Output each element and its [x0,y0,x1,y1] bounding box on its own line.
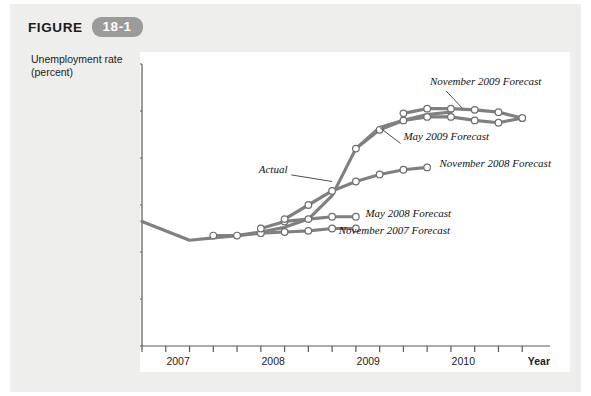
chart-svg: 0246810122007200820092010Year November 2… [140,52,570,372]
series-annotation: November 2008 Forecast [439,157,552,169]
axes-group: 0246810122007200820092010Year [140,58,550,367]
y-axis-title-text: Unemployment rate (percent) [31,53,123,78]
series-marker [495,119,502,126]
series-marker [353,213,360,220]
series-group [142,105,526,240]
annotation-leader-line [380,127,401,143]
series-annotation: May 2008 Forecast [364,207,452,219]
series-marker [519,115,526,122]
series-annotation: May 2009 Forecast [402,130,490,142]
series-marker [329,188,336,195]
annotation-leader-line [291,175,332,182]
series-annotation: November 2009 Forecast [429,75,542,87]
series-marker [305,228,312,235]
y-axis-title: Unemployment rate (percent) [31,53,141,79]
series-marker [424,105,431,112]
x-axis-name: Year [528,355,550,367]
x-tick-label: 2009 [357,355,381,367]
series-marker [376,171,383,178]
plot-panel: 0246810122007200820092010Year November 2… [140,52,570,372]
series-marker [400,166,407,173]
series-marker [281,216,288,223]
series-annotation: Actual [258,163,288,175]
series-marker [305,216,312,223]
series-marker [448,105,455,112]
figure-label: FIGURE [28,20,83,35]
series-marker [424,164,431,171]
series-annotation: November 2007 Forecast [338,224,451,236]
series-marker [424,114,431,121]
series-marker [305,202,312,209]
annotation-group: November 2009 ForecastMay 2009 ForecastN… [258,75,552,236]
x-tick-label: 2007 [166,355,190,367]
series-marker [495,109,502,116]
series-marker [400,117,407,124]
series-marker [329,213,336,220]
series-marker [234,232,241,239]
figure-number-badge: 18-1 [92,17,143,37]
series-marker [471,107,478,114]
series-marker [281,229,288,236]
series-marker [471,117,478,124]
series-marker [329,225,336,232]
series-marker [258,225,265,232]
series-marker [210,232,217,239]
series-marker [353,178,360,185]
figure-card: FIGURE 18-1 Unemployment rate (percent) … [10,4,581,392]
series-marker [353,145,360,152]
figure-header: FIGURE 18-1 [28,17,143,37]
x-tick-label: 2008 [262,355,286,367]
x-tick-label: 2010 [452,355,476,367]
series-marker [448,114,455,121]
series-marker [400,110,407,117]
